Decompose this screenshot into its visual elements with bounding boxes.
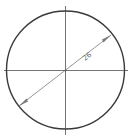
dimension-arrow-lower-left bbox=[19, 99, 28, 106]
dimension-arrow-upper-right bbox=[102, 35, 111, 42]
diameter-dimension-label: 26 bbox=[81, 51, 93, 63]
circle-drawing: 26 bbox=[0, 0, 135, 139]
